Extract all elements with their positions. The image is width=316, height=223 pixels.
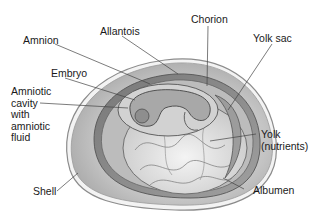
leader-shell: [57, 173, 78, 191]
label-yolk: Yolk (nutrients): [261, 128, 308, 152]
label-shell: Shell: [33, 185, 56, 197]
label-amniotic-cavity: Amniotic cavity with amniotic fluid: [11, 86, 51, 144]
label-amnion: Amnion: [23, 34, 59, 46]
label-allantois: Allantois: [100, 25, 140, 37]
label-albumen: Albumen: [253, 184, 294, 196]
label-embryo: Embryo: [51, 67, 87, 79]
label-chorion: Chorion: [191, 13, 228, 25]
label-yolk-sac: Yolk sac: [253, 32, 292, 44]
